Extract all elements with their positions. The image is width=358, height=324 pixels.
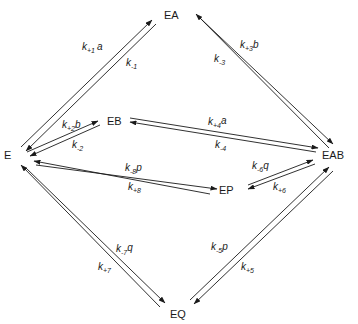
arrow-k5-reverse	[190, 167, 329, 300]
arrow-k1-forward	[21, 20, 152, 147]
node-EA: EA	[164, 9, 179, 21]
label-k-minus-6: k-6q	[252, 160, 269, 173]
label-k-minus-4: k-4	[215, 139, 226, 152]
label-k-minus-5: k-5p	[211, 241, 228, 254]
node-E: E	[4, 149, 11, 161]
label-k-minus-7: k-7q	[116, 242, 133, 256]
label-k-minus-2: k-2	[72, 139, 83, 152]
arrow-k5-forward	[194, 171, 333, 304]
label-k-plus-5: k+5	[241, 261, 254, 274]
node-EB: EB	[107, 115, 122, 127]
label-k-plus-6: k+6	[273, 181, 286, 194]
node-EQ: EQ	[170, 308, 186, 320]
arrow-k8-reverse	[34, 161, 210, 194]
edge-EQ-EAB	[190, 167, 333, 304]
arrow-k1-reverse	[26, 24, 156, 151]
edge-EP-EAB	[248, 160, 315, 189]
label-k-minus-1: k-1	[126, 57, 137, 70]
label-k-minus-3: k-3	[214, 53, 225, 66]
node-EP: EP	[219, 184, 234, 196]
label-k-plus-1: k+1a	[82, 41, 103, 54]
edge-E-EQ	[21, 165, 165, 307]
label-k-plus-4: k+4a	[208, 115, 227, 129]
label-k-plus-8: k+8	[128, 181, 141, 194]
arrow-k7-forward	[26, 168, 165, 303]
label-k-plus-3: k+3b	[240, 39, 259, 52]
label-k-minus-8: k-8p	[125, 162, 142, 175]
kinetic-scheme-diagram: E EA EB EAB EP EQ k+1a k-1 k+2b k-2 k+3b…	[0, 0, 358, 324]
node-EAB: EAB	[322, 149, 344, 161]
label-k-plus-7: k+7	[98, 261, 112, 274]
edge-E-EA	[21, 20, 156, 151]
